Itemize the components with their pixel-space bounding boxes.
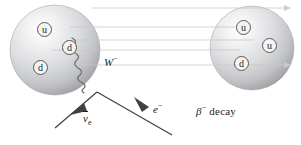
w-boson-label: W− <box>104 54 118 68</box>
beta-decay-diagram: u d d u u d W− νe e− β− decay <box>0 0 301 145</box>
w-boson-symbol: W <box>104 56 113 68</box>
quark-label-neutron-u: u <box>37 22 52 37</box>
proton-sphere <box>210 6 294 90</box>
antineutrino-label: νe <box>83 112 91 127</box>
w-boson-superscript: − <box>113 54 118 63</box>
electron-arrowhead <box>134 97 149 112</box>
quark-label-neutron-d1: d <box>62 40 77 55</box>
decay-word: decay <box>209 105 236 117</box>
antineutrino-symbol: ν <box>83 112 88 124</box>
quark-label-neutron-d2: d <box>33 60 48 75</box>
beta-superscript: − <box>202 103 207 112</box>
quark-label-proton-u2: u <box>262 38 277 53</box>
electron-label: e− <box>153 101 162 115</box>
quark-label-proton-u1: u <box>236 20 251 35</box>
antineutrino-subscript: e <box>88 118 92 127</box>
quark-label-proton-d: d <box>234 56 249 71</box>
electron-superscript: − <box>158 101 163 110</box>
decay-caption: β− decay <box>196 103 236 117</box>
